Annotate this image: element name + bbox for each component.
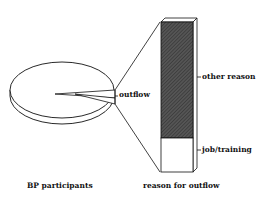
bar-caption: reason for outflow: [143, 181, 220, 190]
stacked-bar: [161, 18, 197, 172]
pie-caption: BP participants: [27, 181, 93, 190]
job-training-label: job/training: [202, 145, 252, 154]
other-reason-label: other reason: [202, 72, 256, 81]
diagram-graphics: [0, 0, 266, 199]
outflow-label: outflow: [119, 90, 150, 99]
diagram: outflow other reason job/training BP par…: [0, 0, 266, 199]
